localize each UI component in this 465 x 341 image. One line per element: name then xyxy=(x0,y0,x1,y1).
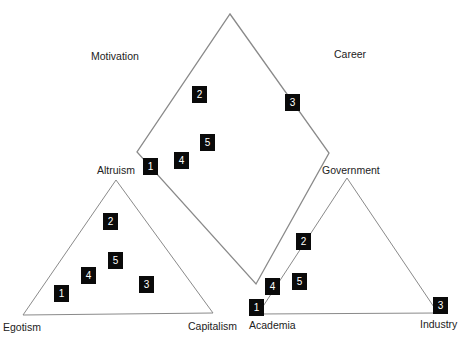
career-label: Career xyxy=(334,48,366,60)
motivation-marker-5: 5 xyxy=(108,252,123,269)
diagram-lines xyxy=(0,0,465,341)
altruism-label: Altruism xyxy=(97,164,135,176)
diamond-marker-1: 1 xyxy=(143,158,158,175)
motivation-marker-3: 3 xyxy=(139,276,154,293)
egotism-label: Egotism xyxy=(3,321,41,333)
motivation-triangle xyxy=(23,180,213,315)
career-triangle xyxy=(258,178,438,314)
capitalism-label: Capitalism xyxy=(188,320,237,332)
career-marker-3: 3 xyxy=(433,297,448,314)
career-marker-1: 1 xyxy=(249,299,264,316)
career-marker-4: 4 xyxy=(265,278,280,295)
career-marker-2: 2 xyxy=(296,233,311,250)
industry-label: Industry xyxy=(420,318,457,330)
motivation-marker-4: 4 xyxy=(81,267,96,284)
motivation-label: Motivation xyxy=(91,50,139,62)
motivation-marker-2: 2 xyxy=(103,213,118,230)
motivation-marker-1: 1 xyxy=(54,285,69,302)
diamond-marker-3: 3 xyxy=(285,94,300,111)
diamond-marker-4: 4 xyxy=(174,152,189,169)
career-marker-5: 5 xyxy=(292,273,307,290)
diamond-marker-5: 5 xyxy=(200,134,215,151)
diamond-marker-2: 2 xyxy=(192,86,207,103)
academia-label: Academia xyxy=(249,319,296,331)
government-label: Government xyxy=(322,164,380,176)
